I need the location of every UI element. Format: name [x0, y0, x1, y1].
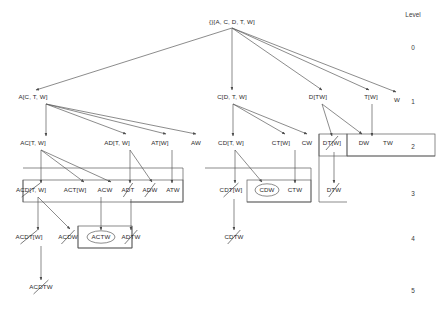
- node-ACTW[interactable]: ACTW: [92, 233, 111, 241]
- edge-A-to-AW: [46, 104, 196, 134]
- node-CDT[interactable]: CDT[W]: [220, 186, 243, 194]
- node-DW[interactable]: DW: [359, 139, 370, 147]
- level-number-0: 0: [411, 44, 415, 51]
- edge-AC-to-ACW: [41, 150, 111, 182]
- node-C[interactable]: C[D, T, W]: [217, 93, 247, 101]
- diagram-canvas: {}[A, C, D, T, W]A[C, T, W]C[D, T, W]D[T…: [0, 0, 438, 315]
- edge-root-to-T: [232, 28, 369, 90]
- edge-A-to-AD: [46, 104, 126, 134]
- node-CT[interactable]: CT[W]: [272, 139, 290, 147]
- level-number-2: 2: [411, 143, 415, 150]
- node-ACDTW[interactable]: ACDTW: [29, 283, 52, 291]
- level-number-3: 3: [411, 190, 415, 197]
- edge-AD-to-ADW: [130, 150, 152, 182]
- edge-root-to-D: [232, 28, 322, 90]
- node-DT[interactable]: DT[W]: [323, 139, 341, 147]
- node-AW[interactable]: AW: [191, 139, 201, 147]
- edge-C-to-CT: [233, 104, 285, 134]
- node-AT[interactable]: AT[W]: [151, 139, 168, 147]
- node-ACD[interactable]: ACD[T, W]: [16, 186, 46, 194]
- node-T[interactable]: T[W]: [364, 93, 378, 101]
- node-CW[interactable]: CW: [302, 139, 313, 147]
- level-number-4: 4: [411, 235, 415, 242]
- edge-A-to-AT: [46, 104, 166, 134]
- node-A[interactable]: A[C, T, W]: [18, 93, 47, 101]
- level-axis-header: Level: [405, 11, 420, 18]
- edge-D-to-DW: [322, 104, 362, 134]
- conn-left-top: [23, 168, 183, 202]
- edge-AC-to-ACT: [41, 150, 84, 182]
- node-CDW[interactable]: CDW: [259, 186, 274, 194]
- node-TW[interactable]: TW: [383, 139, 393, 147]
- level-number-5: 5: [411, 287, 415, 294]
- node-D[interactable]: D[TW]: [309, 93, 327, 101]
- level-number-1: 1: [411, 98, 415, 105]
- node-W[interactable]: W: [394, 96, 400, 104]
- edge-root-to-A: [36, 28, 232, 90]
- edge-CD-to-CDW: [235, 150, 262, 182]
- node-AD[interactable]: AD[T, W]: [104, 139, 130, 147]
- node-ACDT[interactable]: ACDT[W]: [15, 233, 42, 241]
- node-AC[interactable]: AC[T, W]: [20, 139, 46, 147]
- node-CTW[interactable]: CTW: [288, 186, 303, 194]
- edge-layer: [36, 28, 396, 280]
- node-CD[interactable]: CD[T, W]: [218, 139, 244, 147]
- node-ADT[interactable]: ADT: [122, 186, 135, 194]
- edge-root-to-W: [232, 28, 396, 92]
- node-ACDW[interactable]: ACDW: [58, 233, 78, 241]
- node-mark-layer: [20, 136, 339, 294]
- node-root[interactable]: {}[A, C, D, T, W]: [209, 18, 255, 26]
- node-ACW[interactable]: ACW: [98, 186, 113, 194]
- node-CDTW[interactable]: CDTW: [224, 233, 243, 241]
- edge-C-to-CW: [233, 104, 307, 134]
- diagram-vector-layer: [0, 0, 438, 315]
- node-DTW[interactable]: DTW: [327, 186, 342, 194]
- node-ATW[interactable]: ATW: [166, 186, 180, 194]
- node-ADW[interactable]: ADW: [143, 186, 158, 194]
- node-ADTW[interactable]: ADTW: [122, 233, 141, 241]
- node-ACT[interactable]: ACT[W]: [64, 186, 87, 194]
- edge-D-to-DT: [322, 104, 332, 136]
